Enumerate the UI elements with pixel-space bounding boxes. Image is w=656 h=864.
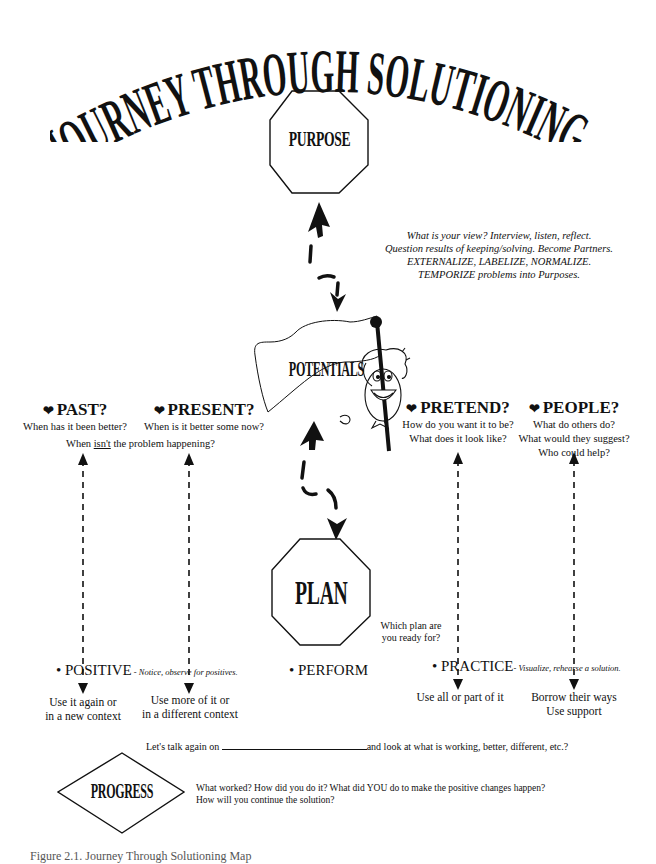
potentials-plan-arrow — [300, 421, 347, 540]
heart-icon: ❤ — [406, 401, 417, 416]
past-outcome: Use it again or in a new context — [38, 695, 128, 723]
pretend-heading: ❤PRETEND? — [398, 398, 518, 418]
people-question: What would they suggest? — [514, 432, 634, 446]
heart-icon: ❤ — [529, 401, 540, 416]
heart-icon: ❤ — [43, 403, 54, 418]
purpose-note-line: What is your view? Interview, listen, re… — [354, 229, 644, 242]
purpose-note-line: Question results of keeping/solving. Bec… — [354, 242, 644, 255]
present-heading: ❤PRESENT? — [144, 400, 264, 420]
people-question: Who could help? — [514, 446, 634, 460]
purpose-note-line: TEMPORIZE problems into Purposes. — [354, 268, 644, 281]
pretend-question: What does it look like? — [398, 432, 518, 446]
present-arrow — [184, 453, 194, 694]
people-arrow — [569, 452, 579, 690]
present-outcome: Use more of it or in a different context — [140, 693, 240, 721]
present-section: ❤PRESENT? When is it better some now? — [144, 400, 264, 434]
positive-bullet: • POSITIVE - Notice, observe for positiv… — [56, 662, 238, 679]
outcome-line: Use support — [524, 704, 624, 718]
people-heading: ❤PEOPLE? — [514, 398, 634, 418]
past-arrow — [78, 453, 88, 694]
heart-icon: ❤ — [154, 403, 165, 418]
past-question: When has it been better? — [0, 420, 150, 434]
plan-question: Which plan are you ready for? — [378, 620, 444, 644]
figure-caption: Figure 2.1. Journey Through Solutioning … — [30, 849, 251, 864]
pretend-section: ❤PRETEND? How do you want it to be? What… — [398, 398, 518, 446]
outcome-line: Use it again or — [38, 695, 128, 709]
shared-question: When isn't the problem happening? — [66, 437, 215, 451]
progress-note: What worked? How did you do it? What did… — [196, 782, 545, 806]
plan-question-line: Which plan are — [378, 620, 444, 632]
outcome-line: Use more of it or — [140, 693, 240, 707]
purpose-note: What is your view? Interview, listen, re… — [354, 229, 644, 281]
pretend-arrow — [453, 452, 463, 690]
date-blank-field[interactable] — [222, 739, 367, 750]
practice-bullet: • PRACTICE- Visualize, rehearse a soluti… — [432, 658, 621, 675]
progress-note-line: What worked? How did you do it? What did… — [196, 782, 545, 794]
pretend-outcome: Use all or part of it — [410, 690, 510, 704]
people-outcome: Borrow their ways Use support — [524, 690, 624, 718]
purpose-label: PURPOSE — [270, 126, 368, 152]
outcome-line: Borrow their ways — [524, 690, 624, 704]
past-section: ❤PAST? When has it been better? — [0, 400, 150, 434]
potentials-label: POTENTIALS — [258, 356, 378, 382]
people-section: ❤PEOPLE? What do others do? What would t… — [514, 398, 634, 460]
past-heading: ❤PAST? — [0, 400, 150, 420]
purpose-note-line: EXTERNALIZE, LABELIZE, NORMALIZE. — [354, 255, 644, 268]
plan-label: PLAN — [272, 574, 370, 612]
purpose-potentials-arrow — [308, 202, 346, 312]
progress-note-line: How will you continue the solution? — [196, 794, 545, 806]
progress-label: PROGRESS — [66, 780, 178, 803]
outcome-line: in a new context — [38, 709, 128, 723]
outcome-line: Use all or part of it — [410, 690, 510, 704]
pretend-question: How do you want it to be? — [398, 418, 518, 432]
people-question: What do others do? — [514, 418, 634, 432]
plan-question-line: you ready for? — [378, 632, 444, 644]
present-question: When is it better some now? — [144, 420, 264, 434]
outcome-line: in a different context — [140, 707, 240, 721]
perform-bullet: • PERFORM — [289, 662, 368, 679]
follow-up-line: Let's talk again on and look at what is … — [146, 739, 568, 754]
